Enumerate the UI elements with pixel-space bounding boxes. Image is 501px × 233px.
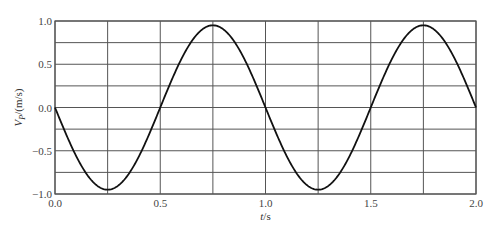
y-tick-label: 1.0 (38, 15, 52, 27)
y-tick-label: −0.5 (32, 145, 52, 157)
x-tick-labels: 0.00.51.01.52.0 (48, 197, 483, 209)
y-tick-label: −1.0 (32, 188, 52, 200)
x-tick-label: 0.5 (153, 197, 167, 209)
x-tick-label: 2.0 (469, 197, 483, 209)
chart: 0.00.51.01.52.0 1.00.50.0−0.5−1.0 t/s VP… (0, 0, 501, 233)
x-axis-label: t/s (260, 210, 270, 222)
x-tick-label: 1.0 (259, 197, 273, 209)
x-tick-label: 1.5 (364, 197, 378, 209)
y-tick-label: 0.5 (38, 58, 52, 70)
y-tick-label: 0.0 (38, 102, 52, 114)
y-tick-labels: 1.00.50.0−0.5−1.0 (32, 15, 52, 200)
y-axis-label: VP/(m/s) (12, 88, 27, 126)
